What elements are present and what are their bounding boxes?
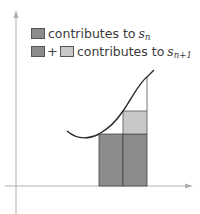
dark-swatch bbox=[31, 28, 45, 39]
rect-sn-1 bbox=[99, 134, 123, 186]
legend-item-sn: contributes to sn bbox=[31, 26, 150, 41]
legend: contributes to sn + contributes to sn+1 bbox=[0, 0, 200, 60]
legend-subscript: n+1 bbox=[174, 50, 192, 60]
light-swatch bbox=[60, 46, 74, 57]
x-axis-arrow-icon bbox=[185, 184, 193, 189]
legend-text: contributes to bbox=[77, 44, 164, 59]
dark-swatch bbox=[31, 46, 45, 57]
legend-item-sn1: + contributes to sn+1 bbox=[31, 44, 192, 59]
legend-text: contributes to bbox=[48, 26, 135, 41]
plus-sign: + bbox=[47, 44, 58, 59]
legend-subscript: n bbox=[145, 32, 150, 42]
rect-sn-2 bbox=[123, 134, 147, 186]
rect-sn1-extra bbox=[123, 111, 147, 134]
